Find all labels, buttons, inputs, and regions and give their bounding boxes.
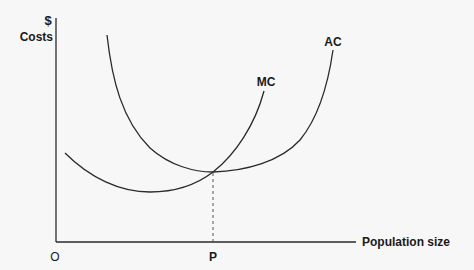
y-axis-dollar-label: $ xyxy=(44,13,52,28)
ac-curve-label: AC xyxy=(324,35,342,49)
mc-curve xyxy=(65,91,264,192)
y-axis-costs-label: Costs xyxy=(20,30,54,44)
p-label: P xyxy=(209,250,217,264)
ac-curve xyxy=(107,35,333,172)
mc-curve-label: MC xyxy=(257,75,276,89)
x-axis-label: Population size xyxy=(362,235,450,249)
cost-curve-chart: $ Costs O P Population size AC MC xyxy=(0,0,474,270)
origin-label: O xyxy=(50,250,59,264)
